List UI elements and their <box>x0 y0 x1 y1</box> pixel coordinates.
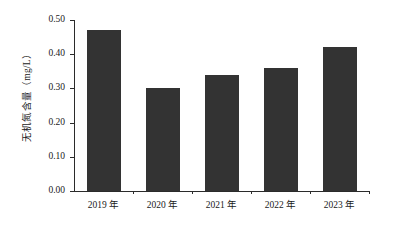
bar <box>205 75 239 191</box>
bar <box>146 88 180 191</box>
x-axis-tick <box>133 191 134 194</box>
x-axis-line <box>74 191 370 192</box>
x-axis-labels: 2019 年2020 年2021 年2022 年2023 年 <box>74 197 370 215</box>
x-axis-tick <box>369 191 370 194</box>
y-axis-tick: 0.20 <box>70 123 74 124</box>
y-axis-title: 无机氮含量（mg/L） <box>18 0 36 191</box>
y-axis-tick: 0.10 <box>70 157 74 158</box>
bar <box>87 30 121 191</box>
x-axis-label: 2023 年 <box>305 197 375 213</box>
x-axis-tick <box>251 191 252 194</box>
x-axis-tick <box>192 191 193 194</box>
bar-chart-figure: 无机氮含量（mg/L） 0.000.100.200.300.400.50 201… <box>0 0 400 232</box>
y-axis-tick: 0.50 <box>70 20 74 21</box>
bar <box>323 47 357 191</box>
y-axis-tick-label: 0.00 <box>48 184 65 197</box>
y-axis-tick-label: 0.10 <box>48 150 65 163</box>
y-axis-tick: 0.40 <box>70 54 74 55</box>
bar <box>264 68 298 191</box>
y-axis-tick: 0.00 <box>70 191 74 192</box>
y-axis-tick-label: 0.50 <box>48 13 65 26</box>
plot-area: 0.000.100.200.300.400.50 <box>74 20 369 191</box>
y-axis-tick: 0.30 <box>70 88 74 89</box>
y-axis-tick-label: 0.20 <box>48 116 65 129</box>
x-axis-tick <box>310 191 311 194</box>
y-axis-tick-label: 0.40 <box>48 47 65 60</box>
y-axis-tick-label: 0.30 <box>48 81 65 94</box>
